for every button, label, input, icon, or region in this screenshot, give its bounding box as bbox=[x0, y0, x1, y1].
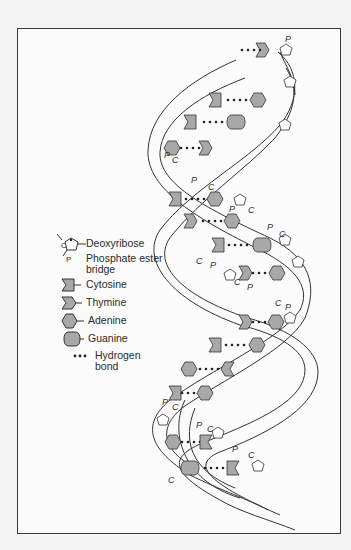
svg-text:P: P bbox=[191, 175, 197, 185]
dna-helix-illustration: P PC PC PC PC CP CP CP PC PC PC C bbox=[0, 0, 351, 550]
strand-labels: P PC PC PC PC CP CP CP PC PC PC C bbox=[162, 34, 291, 485]
svg-text:P: P bbox=[285, 34, 291, 44]
svg-text:C: C bbox=[248, 205, 255, 215]
svg-text:P: P bbox=[247, 282, 253, 292]
svg-text:C: C bbox=[279, 229, 286, 239]
svg-text:P: P bbox=[285, 302, 291, 312]
legend-item-hydrogen-bond: Hydrogen bond bbox=[72, 350, 141, 372]
rounded-hexagon-icon bbox=[63, 330, 88, 348]
svg-text:C: C bbox=[168, 475, 175, 485]
legend-item-cytosine: Cytosine bbox=[61, 276, 127, 294]
svg-text:P: P bbox=[164, 150, 170, 160]
hexagon-icon bbox=[61, 312, 88, 330]
svg-text:C: C bbox=[208, 182, 215, 192]
svg-text:C: C bbox=[172, 402, 179, 412]
thymine-notch-icon bbox=[61, 294, 86, 312]
hydrogen-bond-label: Hydrogen bond bbox=[95, 350, 141, 372]
legend-item-thymine: Thymine bbox=[61, 294, 126, 312]
legend-item-adenine: Adenine bbox=[61, 312, 127, 330]
svg-text:P: P bbox=[232, 444, 238, 454]
svg-text:P: P bbox=[267, 222, 273, 232]
pentagon-sugar-icon: C P bbox=[52, 232, 86, 262]
svg-text:C: C bbox=[234, 277, 241, 287]
svg-text:P: P bbox=[229, 204, 235, 214]
legend-item-phosphate: Phosphate ester bridge bbox=[86, 253, 162, 275]
dots-icon bbox=[72, 350, 95, 368]
svg-text:P: P bbox=[196, 420, 202, 430]
svg-text:C: C bbox=[196, 256, 203, 266]
svg-text:C: C bbox=[275, 298, 282, 308]
cytosine-notch-icon bbox=[61, 276, 86, 294]
svg-text:C: C bbox=[172, 155, 179, 165]
svg-text:C: C bbox=[248, 450, 255, 460]
svg-text:P: P bbox=[66, 255, 71, 262]
svg-text:P: P bbox=[210, 260, 216, 270]
legend-item-guanine: Guanine bbox=[63, 330, 128, 348]
svg-text:P: P bbox=[162, 397, 168, 407]
svg-text:C: C bbox=[207, 424, 214, 434]
